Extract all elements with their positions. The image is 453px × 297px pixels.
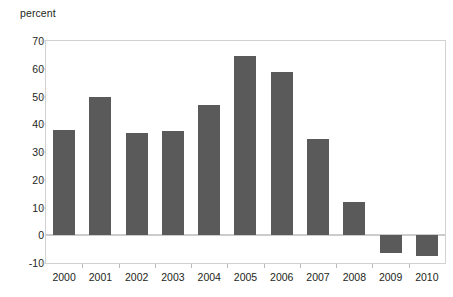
bar-slot <box>191 41 227 263</box>
bar-slot <box>82 41 118 263</box>
x-axis-tick-mark <box>336 264 337 268</box>
bar[interactable] <box>307 139 329 235</box>
bar[interactable] <box>53 130 75 235</box>
x-axis-tick-mark <box>264 264 265 268</box>
x-axis-tick-label: 2002 <box>125 271 148 283</box>
x-axis-tick-label: 2006 <box>270 271 293 283</box>
bar[interactable] <box>198 105 220 235</box>
x-axis-tick-mark <box>372 264 373 268</box>
bar-slot <box>372 41 408 263</box>
x-axis-tick-label: 2000 <box>52 271 75 283</box>
bar[interactable] <box>271 72 293 235</box>
bar-slot <box>409 41 445 263</box>
x-axis-tick-label: 2008 <box>343 271 366 283</box>
y-axis-tick-mark <box>41 41 45 42</box>
bar[interactable] <box>380 235 402 253</box>
x-axis-tick-label: 2007 <box>306 271 329 283</box>
bar-slot <box>336 41 372 263</box>
x-axis-tick-label: 2004 <box>198 271 221 283</box>
bar-slot <box>155 41 191 263</box>
x-axis-tick-mark <box>82 264 83 268</box>
bar[interactable] <box>234 56 256 235</box>
bar-slot <box>119 41 155 263</box>
bar-slot <box>300 41 336 263</box>
bar[interactable] <box>343 202 365 236</box>
bar[interactable] <box>89 97 111 236</box>
bar-chart: percent 706050403020100-10 2000200120022… <box>0 0 453 297</box>
bar[interactable] <box>126 133 148 236</box>
bar-slot <box>46 41 82 263</box>
y-axis-unit-label: percent <box>20 7 56 19</box>
x-axis-tick-mark <box>227 264 228 268</box>
bar[interactable] <box>162 131 184 236</box>
y-axis-tick-label: 0 <box>38 230 44 241</box>
y-axis-tick-mark <box>41 263 45 264</box>
x-axis-tick-label: 2005 <box>234 271 257 283</box>
x-axis-tick-mark <box>409 264 410 268</box>
bar-slot <box>227 41 263 263</box>
x-axis-tick-mark <box>155 264 156 268</box>
x-axis-tick-label: 2010 <box>415 271 438 283</box>
bar-slot <box>264 41 300 263</box>
x-axis-tick-mark <box>191 264 192 268</box>
x-axis-tick-label: 2003 <box>161 271 184 283</box>
x-axis-tick-label: 2009 <box>379 271 402 283</box>
x-axis-tick-mark <box>300 264 301 268</box>
bars-layer <box>46 41 445 263</box>
x-axis-tick-mark <box>119 264 120 268</box>
bar[interactable] <box>416 235 438 256</box>
x-axis-tick-label: 2001 <box>89 271 112 283</box>
